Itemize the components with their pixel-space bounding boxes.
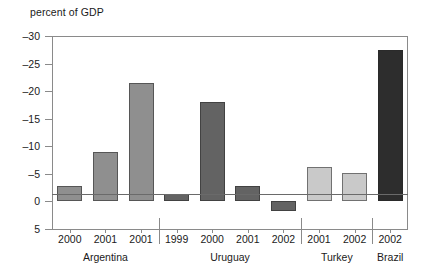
y-tick <box>45 64 52 65</box>
y-axis-label: percent of GDP <box>30 6 104 18</box>
bar <box>378 50 403 202</box>
bar <box>129 83 154 202</box>
group-label: Argentina <box>83 251 128 263</box>
y-tick <box>45 201 52 202</box>
category-label: 1999 <box>165 233 188 245</box>
y-tick <box>45 229 52 230</box>
y-tick <box>45 36 52 37</box>
group-separator <box>372 218 373 244</box>
y-tick-label: –10 <box>14 140 40 152</box>
bar <box>271 201 296 211</box>
bar <box>342 173 367 202</box>
bar <box>307 167 332 201</box>
group-separator <box>159 218 160 244</box>
zero-baseline <box>52 194 408 195</box>
bar-series <box>52 36 408 230</box>
y-tick <box>45 91 52 92</box>
category-label: 2000 <box>201 233 224 245</box>
category-label: 2000 <box>58 233 81 245</box>
y-tick-label: –15 <box>14 113 40 125</box>
category-label: 2001 <box>236 233 259 245</box>
category-label: 2001 <box>307 233 330 245</box>
category-label: 2002 <box>343 233 366 245</box>
y-tick <box>45 119 52 120</box>
y-tick <box>45 146 52 147</box>
category-label: 2001 <box>129 233 152 245</box>
category-label: 2002 <box>272 233 295 245</box>
group-label: Brazil <box>377 251 403 263</box>
category-label: 2001 <box>94 233 117 245</box>
y-tick-label: –30 <box>14 30 40 42</box>
chart-figure: percent of GDP –30–25–20–15–10–505 20002… <box>0 0 427 274</box>
y-tick-label: 0 <box>14 195 40 207</box>
category-label: 2002 <box>379 233 402 245</box>
group-label: Turkey <box>321 251 353 263</box>
bar <box>200 102 225 201</box>
y-tick <box>45 174 52 175</box>
y-tick-label: –5 <box>14 168 40 180</box>
y-tick-label: 5 <box>14 223 40 235</box>
y-tick-label: –25 <box>14 58 40 70</box>
group-separator <box>301 218 302 244</box>
y-tick-label: –20 <box>14 85 40 97</box>
group-label: Uruguay <box>210 251 250 263</box>
